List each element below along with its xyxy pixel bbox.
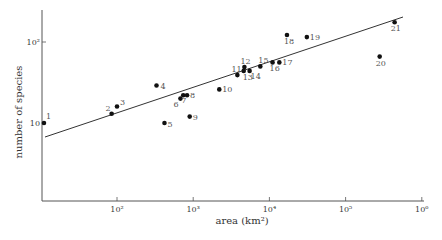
data-point-label: 2 [106,104,111,113]
data-point [154,83,159,88]
data-point [187,114,192,119]
data-point-label: 6 [173,100,178,109]
x-tick-label: 10⁶ [415,205,428,214]
data-point [115,104,120,109]
data-point [277,60,282,65]
data-point-label: 21 [391,24,401,33]
data-point [185,93,190,98]
data-point-label: 14 [251,72,261,81]
data-point-label: 1 [46,112,51,121]
y-ticks: 1010² [27,38,46,128]
data-point-label: 11 [231,65,241,74]
data-point-label: 18 [284,37,294,46]
x-tick-label: 10⁴ [263,205,276,214]
data-point-label: 3 [120,98,125,107]
data-point-label: 16 [270,64,280,73]
x-axis-title: area (km²) [215,215,268,226]
data-point-label: 10 [222,85,232,94]
data-point-label: 7 [181,96,186,105]
data-point-label: 5 [167,120,172,129]
data-point-label: 8 [190,91,195,100]
y-tick-label: 10 [30,119,40,128]
data-point-label: 19 [310,33,320,42]
data-point [42,121,47,126]
x-tick-label: 10⁵ [339,205,352,214]
data-point-label: 9 [193,113,198,122]
data-point-label: 15 [258,56,268,65]
y-tick-label: 10² [27,38,40,47]
x-tick-label: 10³ [187,205,200,214]
species-area-chart: 10²10³10⁴10⁵10⁶ 1010² 123456789101112131… [0,0,442,240]
x-tick-label: 10² [110,205,123,214]
y-axis-title: number of species [13,66,24,159]
axes [42,10,424,201]
data-point-label: 17 [282,58,292,67]
data-point [162,121,167,126]
data-point-label: 20 [376,59,386,68]
data-points: 123456789101112131415161718192021 [42,20,401,129]
regression-line [45,17,403,137]
data-point [305,35,310,40]
data-point-label: 12 [240,57,250,66]
x-ticks: 10²10³10⁴10⁵10⁶ [110,197,428,214]
data-point [217,87,222,92]
data-point-label: 4 [161,82,166,91]
